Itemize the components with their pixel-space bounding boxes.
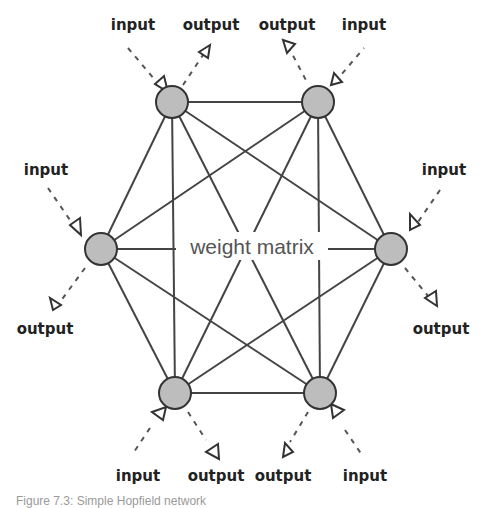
input-label: input: [343, 467, 387, 485]
output-label: output: [259, 16, 316, 34]
neuron-node-bottom-right: [304, 377, 336, 409]
neuron-node-top-left: [156, 86, 188, 118]
input-arrow-icon: [70, 218, 81, 235]
input-label: input: [111, 16, 155, 34]
neuron-node-left: [85, 233, 117, 265]
neuron-node-top-right: [302, 86, 334, 118]
output-label: output: [17, 320, 74, 338]
neuron-node-bottom-left: [159, 377, 191, 409]
output-arrow-icon: [283, 40, 295, 53]
output-arrow-icon: [199, 45, 210, 58]
input-label: input: [342, 16, 386, 34]
input-arrow-icon: [152, 407, 166, 420]
output-arrow-icon: [283, 443, 293, 457]
input-label: input: [24, 161, 68, 179]
weight-matrix-label: weight matrix: [189, 235, 314, 258]
figure-caption: Figure 7.3: Simple Hopfield network: [16, 494, 206, 508]
input-label: input: [422, 161, 466, 179]
input-arrow-icon: [410, 214, 420, 230]
output-arrow-icon: [50, 298, 61, 310]
output-label: output: [255, 467, 312, 485]
input-arrow-icon: [331, 73, 342, 85]
output-label: output: [413, 320, 470, 338]
output-label: output: [183, 16, 240, 34]
output-label: output: [188, 467, 245, 485]
output-arrow-icon: [206, 444, 219, 459]
neuron-node-right: [375, 233, 407, 265]
input-label: input: [116, 467, 160, 485]
input-arrow-icon: [331, 404, 344, 418]
